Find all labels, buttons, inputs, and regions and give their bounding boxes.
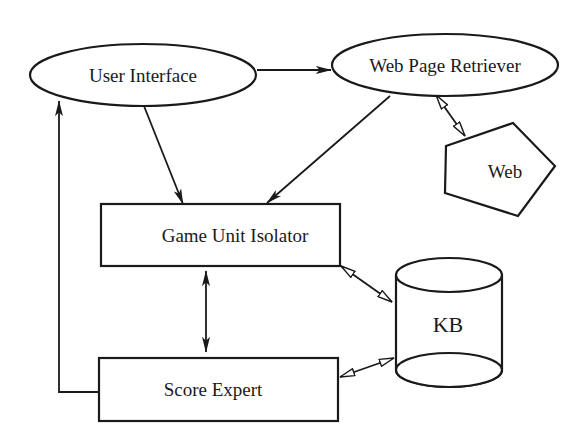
web-page-retriever-label: Web Page Retriever [369, 55, 521, 76]
node-kb-cylinder[interactable]: KB [396, 258, 502, 387]
edge-wpr-web [436, 95, 465, 136]
score-expert-label: Score Expert [164, 379, 263, 400]
node-web[interactable]: Web [445, 123, 555, 216]
game-unit-isolator-label: Game Unit Isolator [162, 225, 309, 246]
architecture-diagram: User Interface Web Page Retriever Web Ga… [0, 0, 583, 443]
edge-gui-kb [341, 266, 392, 302]
web-label: Web [488, 161, 522, 182]
node-user-interface[interactable]: User Interface [30, 44, 256, 106]
node-web-page-retriever[interactable]: Web Page Retriever [332, 34, 558, 96]
edge-ui-to-gui [144, 106, 183, 204]
edge-score-to-ui-feedback [59, 101, 99, 392]
edge-score-kb [340, 358, 394, 377]
node-score-expert[interactable]: Score Expert [99, 358, 338, 421]
edge-wpr-to-gui [267, 96, 390, 203]
user-interface-label: User Interface [89, 65, 197, 86]
node-game-unit-isolator[interactable]: Game Unit Isolator [101, 204, 340, 266]
kb-label: KB [433, 312, 464, 337]
